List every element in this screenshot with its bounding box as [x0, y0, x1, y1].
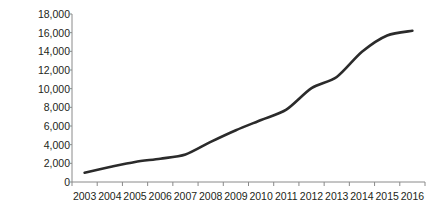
x-axis-tick-label: 2016	[401, 190, 424, 202]
x-axis-tick-label: 2014	[350, 190, 373, 202]
x-axis-tick-label: 2010	[249, 190, 272, 202]
x-axis-tick-label: 2008	[199, 190, 222, 202]
x-axis-tick-label: 2015	[375, 190, 398, 202]
x-axis-tick-labels: 2003200420052006200720082009201020112012…	[0, 0, 434, 212]
x-axis-tick-label: 2006	[149, 190, 172, 202]
x-axis-tick-label: 2013	[325, 190, 348, 202]
x-axis-tick-label: 2003	[73, 190, 96, 202]
x-axis-tick-label: 2005	[123, 190, 146, 202]
x-axis-tick-label: 2009	[224, 190, 247, 202]
x-axis-tick-label: 2004	[98, 190, 121, 202]
x-axis-tick-label: 2007	[174, 190, 197, 202]
x-axis-tick-label: 2011	[275, 190, 298, 202]
x-axis-tick-label: 2012	[300, 190, 323, 202]
line-chart: Rand million 02,0004,0006,0008,00010,000…	[0, 0, 434, 212]
